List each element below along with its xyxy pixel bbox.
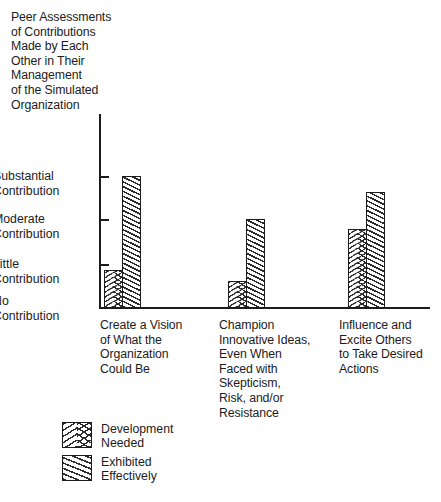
legend-label-exhibited-effectively: Exhibited Effectively (101, 455, 157, 484)
legend-label-development-needed: Development Needed (101, 422, 173, 451)
bar-g2-exhibited-effectively (246, 219, 265, 308)
bar-g2-development-needed (228, 281, 247, 308)
x-axis-category-influence-and-excite-others: Influence and Excite Others to Take Desi… (339, 318, 441, 376)
y-axis-tick-moderate (101, 219, 109, 221)
y-axis-line (99, 114, 101, 309)
legend-item-development-needed: Development Needed (62, 422, 173, 451)
bar-g1-exhibited-effectively (122, 176, 141, 308)
y-axis-label-no-contribution: No Contribution (0, 294, 93, 323)
chart-legend: Development Needed Exhibited Effectively (62, 422, 173, 488)
legend-item-exhibited-effectively: Exhibited Effectively (62, 455, 173, 484)
bar-g3-development-needed (348, 229, 367, 308)
y-axis-tick-substantial (101, 176, 109, 178)
legend-swatch-development-needed (62, 422, 92, 448)
y-axis-label-substantial: Substantial Contribution (0, 169, 93, 198)
x-axis-category-champion-innovative-ideas: Champion Innovative Ideas, Even When Fac… (219, 318, 327, 420)
y-axis-tick-little (101, 264, 109, 266)
y-axis-label-little: Little Contribution (0, 257, 93, 286)
y-axis-label-moderate: Moderate Contribution (0, 212, 93, 241)
bar-g3-exhibited-effectively (366, 192, 385, 308)
bar-g1-development-needed (104, 270, 123, 308)
x-axis-category-create-a-vision: Create a Vision of What the Organization… (100, 318, 204, 376)
legend-swatch-exhibited-effectively (62, 455, 92, 481)
